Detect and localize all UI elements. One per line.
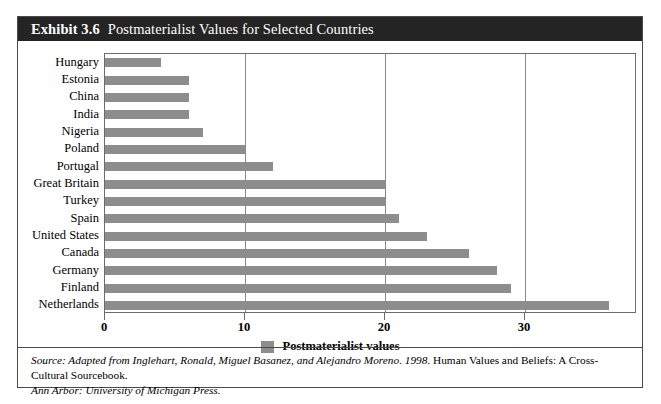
category-label-united-states: United States <box>32 227 99 243</box>
axis-tick-20 <box>384 313 385 320</box>
source-note: Source: Adapted from Inglehart, Ronald, … <box>31 353 630 398</box>
axis-tick-10 <box>244 313 245 320</box>
category-label-nigeria: Nigeria <box>62 123 99 139</box>
exhibit-container: Exhibit 3.6 Postmaterialist Values for S… <box>17 16 643 388</box>
axis-tick-30 <box>524 313 525 320</box>
bar-united-states <box>105 232 427 241</box>
bar-spain <box>105 214 399 223</box>
category-label-portugal: Portugal <box>57 158 99 174</box>
axis-tick-label-0: 0 <box>101 320 107 335</box>
value-axis-ticks <box>104 313 636 320</box>
category-label-india: India <box>73 106 99 122</box>
bar-row <box>105 211 635 227</box>
plot-area <box>104 53 636 313</box>
exhibit-title-bar: Exhibit 3.6 Postmaterialist Values for S… <box>18 17 642 41</box>
bar-hungary <box>105 58 161 67</box>
bar-row <box>105 124 635 140</box>
category-label-turkey: Turkey <box>63 192 99 208</box>
bar-row <box>105 193 635 209</box>
bar-germany <box>105 266 497 275</box>
bar-netherlands <box>105 301 609 310</box>
category-label-germany: Germany <box>52 262 99 278</box>
bar-estonia <box>105 76 189 85</box>
exhibit-number: Exhibit 3.6 <box>31 21 100 38</box>
bar-row <box>105 107 635 123</box>
bar-china <box>105 93 189 102</box>
bar-portugal <box>105 162 273 171</box>
source-divider <box>18 347 642 348</box>
category-label-great-britain: Great Britain <box>33 175 99 191</box>
bar-row <box>105 263 635 279</box>
bar-turkey <box>105 197 385 206</box>
bar-series <box>105 54 635 312</box>
bar-canada <box>105 249 469 258</box>
category-label-finland: Finland <box>61 279 99 295</box>
bar-row <box>105 89 635 105</box>
bar-row <box>105 176 635 192</box>
bar-nigeria <box>105 128 203 137</box>
bar-poland <box>105 145 245 154</box>
category-axis-labels: HungaryEstoniaChinaIndiaNigeriaPolandPor… <box>18 53 104 313</box>
category-label-estonia: Estonia <box>62 71 100 87</box>
axis-tick-label-30: 30 <box>518 320 531 335</box>
category-label-china: China <box>69 88 99 104</box>
bar-finland <box>105 284 511 293</box>
axis-tick-0 <box>104 313 105 320</box>
bar-row <box>105 72 635 88</box>
category-label-netherlands: Netherlands <box>39 296 99 312</box>
bar-row <box>105 280 635 296</box>
chart-area: HungaryEstoniaChinaIndiaNigeriaPolandPor… <box>18 41 642 341</box>
bar-row <box>105 141 635 157</box>
category-label-poland: Poland <box>64 140 99 156</box>
bar-great-britain <box>105 180 385 189</box>
category-label-canada: Canada <box>62 244 99 260</box>
bar-india <box>105 110 189 119</box>
page-title: Postmaterialist Values for Selected Coun… <box>108 21 374 38</box>
bar-row <box>105 245 635 261</box>
axis-tick-label-20: 20 <box>378 320 391 335</box>
source-citation-italic: Source: Adapted from Inglehart, Ronald, … <box>31 354 430 366</box>
source-publisher: Ann Arbor: University of Michigan Press. <box>31 384 221 396</box>
category-label-spain: Spain <box>71 210 99 226</box>
bar-row <box>105 159 635 175</box>
axis-tick-label-10: 10 <box>238 320 251 335</box>
bar-row <box>105 297 635 313</box>
bar-row <box>105 228 635 244</box>
value-axis-tick-labels: 0102030 <box>104 320 636 336</box>
bar-row <box>105 55 635 71</box>
category-label-hungary: Hungary <box>55 54 99 70</box>
